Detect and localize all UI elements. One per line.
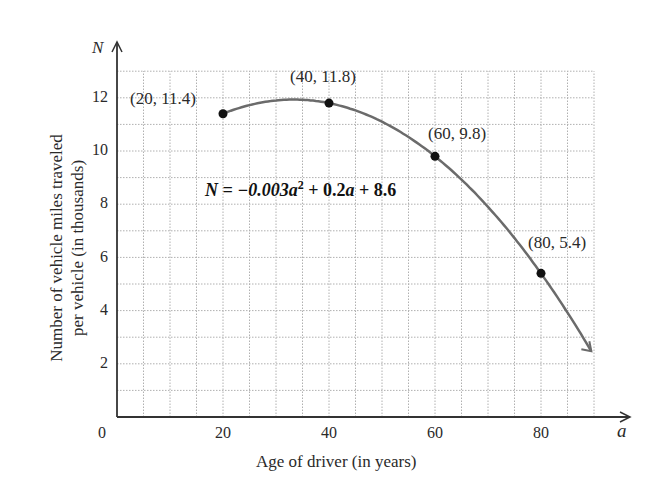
quadratic-curve [223, 100, 591, 352]
y-tick-12: 12 [78, 88, 108, 106]
equation-mid: + 0.2 [304, 180, 346, 200]
point-label-20: (20, 11.4) [130, 89, 196, 109]
point-label-60: (60, 9.8) [428, 124, 486, 144]
y-axis-title: Number of vehicle miles traveled per veh… [46, 118, 88, 378]
equation-lhs: N = −0.003 [205, 180, 289, 200]
x-axis-symbol: a [617, 420, 627, 442]
grid-lines [117, 71, 594, 417]
y-axis-title-line1: Number of vehicle miles traveled [46, 118, 67, 378]
x-tick-20: 20 [203, 424, 243, 442]
x-tick-80: 80 [521, 424, 561, 442]
x-axis-title: Age of driver (in years) [256, 452, 417, 472]
y-axis-title-line2: per vehicle (in thousands) [67, 118, 88, 378]
point-label-80: (80, 5.4) [528, 233, 586, 253]
data-point [219, 109, 228, 118]
equation-label: N = −0.003a2 + 0.2a + 8.6 [205, 178, 396, 201]
origin-label: 0 [98, 424, 106, 442]
data-point [325, 99, 334, 108]
data-point [431, 152, 440, 161]
y-axis-symbol: N [92, 38, 103, 58]
x-tick-40: 40 [309, 424, 349, 442]
data-point [537, 269, 546, 278]
equation-var-a: a [289, 180, 298, 200]
x-tick-60: 60 [415, 424, 455, 442]
point-label-40: (40, 11.8) [290, 67, 356, 87]
equation-rhs: + 8.6 [354, 180, 396, 200]
